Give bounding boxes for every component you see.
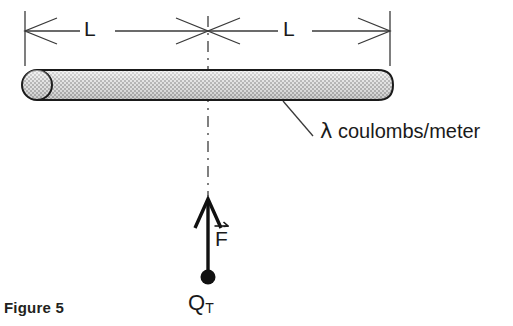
dimension-label-left: L — [84, 18, 96, 39]
dimension-right — [208, 18, 390, 44]
force-symbol: F — [215, 227, 228, 250]
rod-charge-density-label: λ coulombs/meter — [320, 121, 480, 142]
charged-rod — [22, 70, 393, 100]
test-charge-label: QT — [188, 292, 214, 315]
figure-caption: Figure 5 — [4, 300, 64, 315]
force-vector-label: F — [215, 228, 228, 249]
figure-5-diagram: L L λ coulombs/meter F QT Figure 5 — [0, 0, 513, 326]
diagram-canvas — [0, 0, 513, 326]
test-charge-dot — [201, 270, 216, 285]
rod-charge-density-text: coulombs/meter — [332, 120, 480, 142]
dimension-left — [25, 18, 208, 44]
rod-end-cap-left-highlight — [22, 70, 52, 100]
dimension-label-right: L — [283, 18, 295, 39]
rod-body-shading — [37, 70, 393, 100]
lambda-symbol: λ — [320, 119, 332, 143]
test-charge-subscript: T — [205, 300, 214, 316]
test-charge-symbol: Q — [188, 290, 205, 315]
vector-arrow-accent-icon — [214, 220, 229, 228]
leader-line-lambda — [283, 101, 313, 136]
